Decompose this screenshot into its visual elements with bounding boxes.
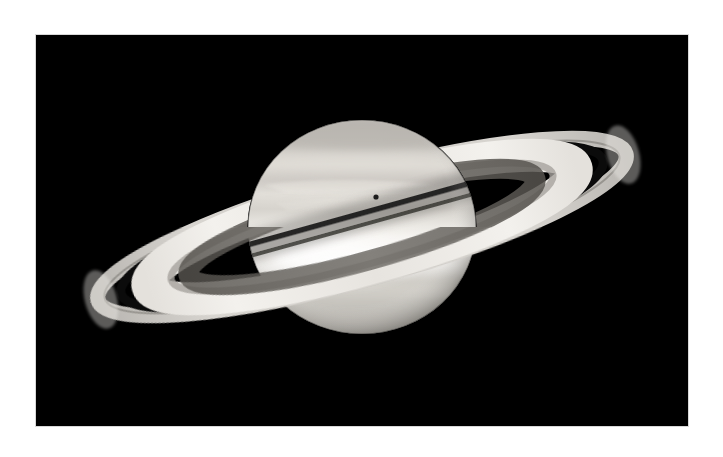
saturn-photo — [36, 35, 688, 426]
moon-shadow-dot — [373, 194, 378, 199]
photo-canvas — [36, 35, 688, 426]
saturn-scene — [36, 35, 688, 426]
page-root — [0, 0, 723, 457]
